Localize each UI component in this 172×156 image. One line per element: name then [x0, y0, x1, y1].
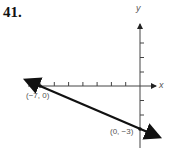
point-b	[138, 127, 142, 131]
y-ticks	[140, 43, 144, 115]
point-b-label: (0, −3)	[110, 127, 133, 136]
graph	[0, 0, 172, 156]
point-a-label: (−7, 0)	[26, 91, 49, 100]
x-axis-label: x	[159, 80, 164, 90]
y-axis-label: y	[136, 3, 141, 13]
x-ticks	[40, 82, 126, 86]
point-a	[38, 84, 42, 88]
